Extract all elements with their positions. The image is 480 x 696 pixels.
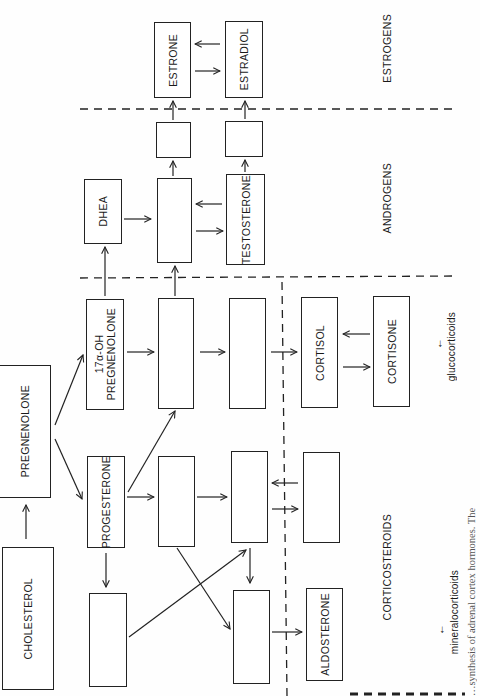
cortisol-label: CORTISOL <box>314 325 326 381</box>
corticosteroids-group-label: CORTICOSTEROIDS <box>381 514 393 620</box>
aldosterone-label: ALDOSTERONE <box>319 593 331 676</box>
pregnenolone-label: PREGNENOLONE <box>19 385 31 477</box>
blank-box-col3-low <box>231 451 268 543</box>
blank-box-col2-low <box>158 456 195 547</box>
blank-box-col3-mid <box>229 298 266 409</box>
dhea-label: DHEA <box>97 196 109 226</box>
mineralocorticoids-label: mineralocorticoids <box>449 570 460 654</box>
blank-box-below-progesterone <box>89 593 127 687</box>
progesterone-label: PROGESTERONE <box>100 456 112 548</box>
dhea-box: DHEA <box>84 179 122 244</box>
blank-box-col3-bottom <box>233 590 270 684</box>
oh-pregnenolone-box: 17α-OH PREGNENOLONE <box>86 299 124 410</box>
figure-caption: …synthesis of adrenal cortex hormones. T… <box>466 0 477 696</box>
pregnenolone-box: PREGNENOLONE <box>0 365 51 498</box>
testosterone-label: TESTOSTERONE <box>240 175 252 264</box>
glucocorticoids-label: glucocorticoids <box>446 312 457 381</box>
glucocorticoids-arrow-icon: ← <box>432 338 444 349</box>
testosterone-box: TESTOSTERONE <box>226 174 265 265</box>
progesterone-box: PROGESTERONE <box>87 456 125 548</box>
androgens-group-label: ANDROGENS <box>381 163 393 233</box>
blank-box-corticosteroid <box>303 452 340 543</box>
cortisone-box: CORTISONE <box>373 296 410 407</box>
estrone-box: ESTRONE <box>154 22 191 98</box>
cholesterol-box: CHOLESTEROL <box>2 547 54 690</box>
steroid-pathway-diagram: CHOLESTEROL PREGNENOLONE PROGESTERONE 17… <box>0 0 480 696</box>
blank-box-col2-mid <box>158 298 194 409</box>
oh-pregnenolone-label: 17α-OH PREGNENOLONE <box>93 308 117 400</box>
blank-box-androgen-2 <box>225 121 263 157</box>
blank-box-androgen-1 <box>156 122 191 158</box>
estrone-label: ESTRONE <box>167 34 179 87</box>
cortisone-label: CORTISONE <box>386 319 398 384</box>
cholesterol-label: CHOLESTEROL <box>22 578 34 660</box>
estradiol-label: ESTRADIOL <box>238 28 250 90</box>
estradiol-box: ESTRADIOL <box>225 21 263 98</box>
cortisol-box: CORTISOL <box>301 297 338 408</box>
blank-box-col2-top <box>157 178 192 263</box>
estrogens-group-label: ESTROGENS <box>381 14 393 83</box>
mineralocorticoids-arrow-icon: ← <box>434 624 446 635</box>
aldosterone-box: ALDOSTERONE <box>306 588 343 681</box>
